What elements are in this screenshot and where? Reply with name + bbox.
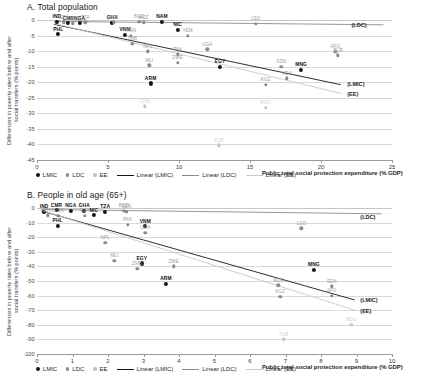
trendline-lmic [41, 211, 354, 300]
x-axis-tick-mark [250, 160, 251, 163]
x-axis-tick: 10 [176, 164, 183, 170]
x-axis-tick: 5 [213, 358, 216, 364]
legend-label: Linear (LMIC) [137, 172, 174, 178]
trendline-label: (LMIC) [360, 297, 377, 303]
x-axis-tick-mark [37, 354, 38, 357]
x-axis-tick-mark [250, 354, 251, 357]
legend-item-linear--lmic-[interactable]: Linear (LMIC) [117, 366, 174, 372]
data-point-label: AFG [327, 288, 337, 293]
data-point-label: YEM [182, 28, 192, 33]
data-point-label: ZWE [168, 259, 179, 264]
x-axis-tick: 2 [106, 358, 109, 364]
data-point-label: ZWE [172, 55, 183, 60]
x-axis-tick: 4 [177, 358, 180, 364]
data-point-label: NIC [173, 22, 182, 27]
legend-marker-line [182, 175, 199, 176]
data-point-label: MLI [110, 253, 118, 258]
legend-marker-line [246, 369, 263, 370]
data-point-label: TUR [214, 138, 224, 143]
legend-label: Linear (LMIC) [137, 366, 174, 372]
legend-item-ee[interactable]: EE [93, 366, 107, 372]
data-point-label: KGZ [261, 77, 271, 82]
legend-label: EE [100, 366, 108, 372]
legend-marker-dot [66, 173, 69, 176]
data-point-label: MDA [273, 278, 284, 283]
legend-item-linear--ldc-[interactable]: Linear (LDC) [182, 172, 236, 178]
data-point-label: MNG [295, 62, 307, 67]
x-axis-tick-mark [286, 354, 287, 357]
legend-label: LMIC [43, 172, 57, 178]
trendline-label: (LDC) [360, 214, 375, 220]
y-axis-tick: -15 [26, 64, 34, 70]
x-axis-line [37, 160, 392, 161]
legend-marker-dot [93, 367, 96, 370]
legend-item-lmic[interactable]: LMIC [36, 172, 57, 178]
data-point-label: NGA [65, 203, 76, 208]
data-point-label: ZMB [132, 261, 142, 266]
data-point-label: TZA [81, 15, 90, 20]
panel-a-title: A. Total population [27, 2, 98, 12]
data-point-label: TZA [100, 204, 110, 209]
data-point-label: CMR [51, 203, 62, 208]
legend-marker-line [117, 175, 134, 176]
trendline-label: (LMIC) [347, 81, 364, 87]
data-point-label: MDA [282, 71, 293, 76]
y-axis-tick: -40 [26, 141, 34, 147]
data-point-label: SEN [122, 204, 132, 209]
legend-item-lmic[interactable]: LMIC [36, 366, 57, 372]
x-axis-tick-mark [108, 354, 109, 357]
legend-item-ee[interactable]: EE [93, 172, 107, 178]
x-axis-tick: 0 [35, 164, 38, 170]
x-axis-tick: 3 [142, 358, 145, 364]
legend-marker-dot [36, 173, 40, 177]
y-axis-tick: -10 [26, 48, 34, 54]
trendline-ee [54, 23, 341, 93]
x-axis-tick-mark [179, 354, 180, 357]
panel-b-title: B. People in old age (65+) [27, 190, 127, 200]
data-point-label: LSO [297, 221, 307, 226]
chart-panel-total-population: A. Total population Differences in pover… [0, 0, 435, 192]
legend-marker-line [246, 175, 263, 176]
legend-item-ldc[interactable]: LDC [66, 172, 84, 178]
y-axis-tick: -30 [26, 110, 34, 116]
panel-b-x-axis-label: Public total social protection expenditu… [262, 364, 403, 370]
panel-a-plot-area: 0-5-10-15-20-25-30-35-40-450510152025IND… [37, 20, 392, 160]
legend-label: EE [100, 172, 108, 178]
data-point-label: MLI [145, 58, 153, 63]
trendline-ee [41, 210, 354, 310]
trendline-label: (EE) [360, 308, 371, 314]
x-axis-tick-mark [73, 354, 74, 357]
trendline-lmic [54, 24, 341, 84]
data-point-label: RWA [125, 28, 136, 33]
data-point-label: TUR [279, 332, 289, 337]
data-point-label: NPL [143, 44, 152, 49]
legend-item-linear--lmic-[interactable]: Linear (LMIC) [117, 172, 174, 178]
chart-panel-old-age: B. People in old age (65+) Differences i… [0, 188, 435, 385]
legend-marker-dot [93, 173, 96, 176]
x-axis-tick-mark [357, 354, 358, 357]
data-point-label: SDN [327, 279, 337, 284]
data-point-label: ETH [43, 208, 53, 213]
data-point-label: CHN [140, 99, 150, 104]
data-point-label: MOZ [138, 15, 149, 20]
legend-item-linear--ldc-[interactable]: Linear (LDC) [182, 366, 236, 372]
x-axis-tick: 6 [248, 358, 251, 364]
legend-label: LDC [72, 366, 84, 372]
legend-label: LMIC [43, 366, 57, 372]
panel-b-y-axis-label: Differences in poverty rates before and … [6, 212, 20, 350]
y-axis-tick: 0 [31, 205, 34, 211]
x-axis-tick-mark [392, 354, 393, 357]
legend-label: Linear (LDC) [202, 172, 236, 178]
trendline-label: (LDC) [351, 22, 366, 28]
legend-marker-line [182, 369, 199, 370]
data-point-label: COM [53, 208, 64, 213]
x-axis-tick-mark [321, 160, 322, 163]
legend-item-ldc[interactable]: LDC [66, 366, 84, 372]
data-point-label: ROU [346, 317, 357, 322]
data-point-label: ARM [145, 76, 156, 81]
data-point-label: PHL [53, 27, 63, 32]
x-axis-tick-mark [108, 160, 109, 163]
data-point-label: BLR [333, 48, 342, 53]
x-axis-tick-mark [37, 160, 38, 163]
data-point-label: DZA [80, 208, 90, 213]
